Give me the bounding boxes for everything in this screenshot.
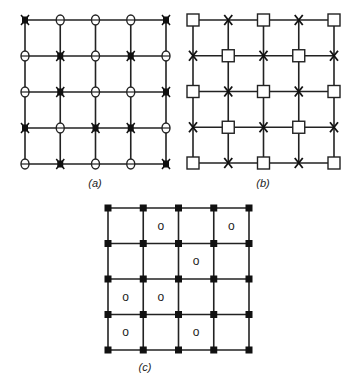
filled-cross-node-icon (162, 87, 170, 97)
panel-c: ooooooo (105, 205, 253, 354)
filled-square-node-icon (210, 240, 217, 247)
open-square-node-icon (187, 86, 199, 98)
filled-square-node-icon (140, 311, 147, 318)
filled-square-node-icon (246, 276, 253, 283)
filled-square-node-icon (210, 311, 217, 318)
filled-square-node-icon (140, 347, 147, 354)
cell-mark: o (122, 325, 129, 339)
filled-cross-node-icon (127, 51, 135, 61)
filled-square-node-icon (246, 347, 253, 354)
filled-cross-node-icon (127, 123, 135, 133)
filled-square-node-icon (210, 205, 217, 212)
cell-mark: o (158, 219, 165, 233)
cell-mark: o (193, 325, 200, 339)
filled-cross-node-icon (21, 15, 29, 25)
filled-cross-node-icon (21, 123, 29, 133)
filled-square-node-icon (246, 240, 253, 247)
open-circle-node-icon (21, 87, 29, 97)
filled-square-node-icon (246, 205, 253, 212)
panel-label-b: (b) (256, 177, 269, 189)
filled-square-node-icon (175, 347, 182, 354)
cell-mark: o (122, 290, 129, 304)
open-square-node-icon (258, 157, 270, 169)
filled-square-node-icon (175, 205, 182, 212)
filled-square-node-icon (210, 347, 217, 354)
open-square-node-icon (293, 121, 305, 133)
open-circle-node-icon (92, 51, 100, 61)
open-circle-node-icon (92, 159, 100, 169)
filled-square-node-icon (210, 276, 217, 283)
filled-square-node-icon (175, 311, 182, 318)
filled-cross-node-icon (162, 15, 170, 25)
filled-square-node-icon (140, 240, 147, 247)
filled-cross-node-icon (56, 87, 64, 97)
cell-mark: o (193, 254, 200, 268)
filled-square-node-icon (140, 276, 147, 283)
open-square-node-icon (328, 86, 340, 98)
open-square-node-icon (222, 50, 234, 62)
figure-canvas: ooooooo (0, 0, 352, 384)
filled-square-node-icon (175, 276, 182, 283)
open-circle-node-icon (127, 87, 135, 97)
open-circle-node-icon (127, 15, 135, 25)
filled-square-node-icon (105, 311, 112, 318)
open-circle-node-icon (162, 51, 170, 61)
filled-cross-node-icon (162, 159, 170, 169)
filled-square-node-icon (175, 240, 182, 247)
open-circle-node-icon (162, 123, 170, 133)
open-circle-node-icon (92, 87, 100, 97)
filled-cross-node-icon (56, 51, 64, 61)
panel-label-c: (c) (139, 361, 152, 373)
filled-square-node-icon (105, 240, 112, 247)
filled-square-node-icon (246, 311, 253, 318)
open-square-node-icon (328, 157, 340, 169)
open-square-node-icon (293, 50, 305, 62)
open-square-node-icon (187, 14, 199, 26)
open-square-node-icon (258, 86, 270, 98)
filled-cross-node-icon (92, 123, 100, 133)
panel-a (21, 15, 170, 169)
cell-mark: o (228, 219, 235, 233)
filled-square-node-icon (105, 276, 112, 283)
filled-square-node-icon (140, 205, 147, 212)
open-circle-node-icon (56, 123, 64, 133)
filled-square-node-icon (105, 347, 112, 354)
open-circle-node-icon (56, 15, 64, 25)
open-square-node-icon (222, 121, 234, 133)
open-square-node-icon (258, 14, 270, 26)
open-square-node-icon (187, 157, 199, 169)
open-circle-node-icon (92, 15, 100, 25)
cell-mark: o (158, 290, 165, 304)
panel-b (187, 14, 340, 169)
open-circle-node-icon (21, 51, 29, 61)
filled-square-node-icon (105, 205, 112, 212)
panel-label-a: (a) (88, 177, 101, 189)
filled-cross-node-icon (56, 159, 64, 169)
open-circle-node-icon (127, 159, 135, 169)
open-circle-node-icon (21, 159, 29, 169)
open-square-node-icon (328, 14, 340, 26)
